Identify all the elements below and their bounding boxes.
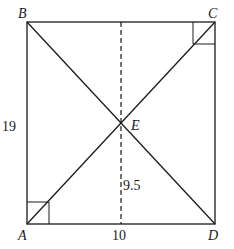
height-label: 9.5	[123, 178, 141, 193]
side-length-label: 19	[2, 119, 16, 134]
vertex-label-E: E	[130, 118, 140, 133]
vertex-label-B: B	[18, 6, 27, 21]
base-length-label: 10	[112, 228, 126, 243]
vertex-label-C: C	[208, 6, 218, 21]
geometry-diagram: B C A D E 19 10 9.5	[0, 0, 234, 249]
vertex-label-A: A	[17, 228, 27, 243]
vertex-label-D: D	[207, 228, 218, 243]
